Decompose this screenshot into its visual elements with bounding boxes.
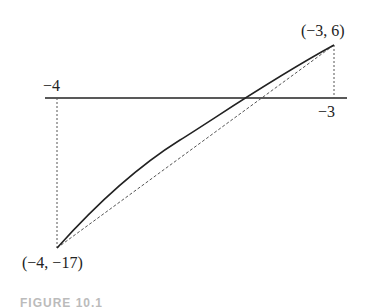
figure-caption: FIGURE 10.1 xyxy=(20,296,103,308)
point-label-right: (−3, 6) xyxy=(301,23,345,39)
secant-chord xyxy=(57,45,334,248)
point-label-left: (−4, −17) xyxy=(22,255,83,271)
tick-label-left: −4 xyxy=(43,78,60,94)
tick-label-right: −3 xyxy=(318,104,335,120)
